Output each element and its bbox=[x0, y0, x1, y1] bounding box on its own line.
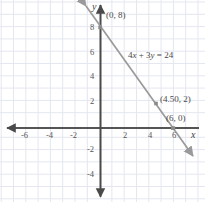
point-label-x-intercept: (6, 0) bbox=[166, 114, 186, 123]
x-tick-label-2: 2 bbox=[123, 131, 127, 140]
y-axis-label: y bbox=[92, 2, 96, 12]
x-tick-label-neg2: -2 bbox=[70, 131, 77, 140]
point-marker-y-intercept bbox=[98, 26, 102, 30]
y-tick-label-4: 4 bbox=[90, 72, 94, 81]
x-tick-label-neg4: -4 bbox=[46, 131, 53, 140]
point-label-y-intercept: (0, 8) bbox=[106, 11, 126, 20]
point-marker-midpoint bbox=[154, 102, 158, 106]
y-tick-label-neg4: -4 bbox=[87, 170, 94, 179]
coordinate-plane-figure: -6 -4 -2 2 4 6 8 6 4 2 -2 -4 x y (0, 8) … bbox=[0, 0, 205, 202]
y-tick-label-2: 2 bbox=[90, 97, 94, 106]
y-tick-label-6: 6 bbox=[90, 48, 94, 57]
equation-line bbox=[86, 6, 193, 156]
y-tick-label-neg2: -2 bbox=[87, 145, 94, 154]
x-tick-label-4: 4 bbox=[148, 131, 152, 140]
equation-constant: = 24 bbox=[155, 50, 174, 60]
y-tick-label-8: 8 bbox=[90, 23, 94, 32]
x-tick-label-6: 6 bbox=[172, 131, 176, 140]
equation-operator: + 3 bbox=[137, 50, 151, 60]
x-axis-label: x bbox=[191, 130, 195, 140]
x-tick-label-neg6: -6 bbox=[21, 131, 28, 140]
point-label-midpoint: (4.50, 2) bbox=[160, 95, 191, 104]
equation-label: 4x + 3y = 24 bbox=[128, 51, 173, 60]
